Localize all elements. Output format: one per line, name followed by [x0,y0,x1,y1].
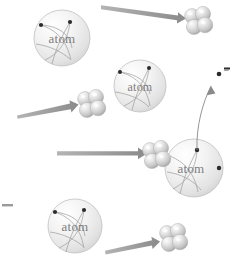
atom-1-label: atom [49,31,76,46]
electron-dot [39,23,43,27]
alpha-particle-4 [160,223,188,251]
electron-dot [68,20,72,24]
electron-dot [217,72,222,77]
alpha-particle-2 [78,89,106,117]
atom-2: atom [114,60,166,112]
arrow-4 [105,237,160,255]
atom-4-label: atom [62,219,89,234]
atom-1: atom [34,10,90,66]
arrow-2 [17,100,79,119]
atom-3: atom [165,139,223,197]
atom-3-label: atom [178,161,205,176]
electron-dot [147,66,151,70]
alpha-particle-atom-diagram: atom atom [0,0,238,267]
electron-dot [82,208,86,212]
electron-dot [217,166,221,170]
electron-dot [53,210,57,214]
atom-4: atom [48,199,102,253]
left-dash [2,204,13,206]
electron-dot [118,70,122,74]
ejected-electron: – [197,64,230,150]
arrow-1 [101,5,186,23]
atom-2-label: atom [128,80,153,94]
arrow-3 [57,148,147,160]
diagram-canvas: atom atom [0,0,238,267]
alpha-particle-1 [185,6,213,34]
alpha-particle-3 [143,140,171,168]
